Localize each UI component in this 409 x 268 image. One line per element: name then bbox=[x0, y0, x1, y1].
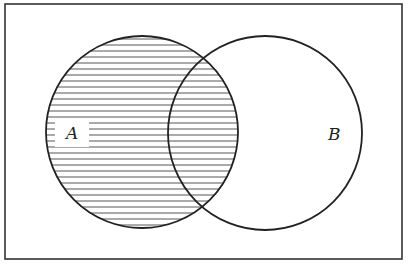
set-a-label: A bbox=[64, 123, 78, 143]
set-b-label: B bbox=[327, 124, 341, 144]
venn-diagram: A B bbox=[0, 0, 409, 268]
